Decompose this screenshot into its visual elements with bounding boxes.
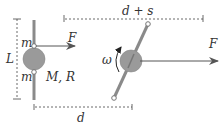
omega-label: ω: [102, 53, 112, 67]
distance-d-label: d: [77, 111, 85, 125]
disk: [23, 48, 45, 70]
mass-top: [146, 22, 151, 27]
force-label: F: [208, 37, 218, 51]
force-label: F: [67, 31, 77, 45]
mass-top-label: m: [21, 36, 32, 50]
left-configuration: L m m M, R F: [5, 19, 77, 100]
mass-bottom: [112, 96, 117, 101]
mass-bottom-label: m: [21, 70, 32, 84]
length-dimension: [13, 19, 21, 99]
right-configuration: ω F: [102, 22, 218, 101]
distance-d-dimension: d: [34, 104, 132, 125]
distance-ds-dimension: d + s: [64, 4, 203, 22]
distance-ds-label: d + s: [122, 4, 154, 18]
length-label: L: [5, 52, 14, 66]
physics-diagram: L m m M, R F d d + s ω F: [0, 0, 221, 127]
disk-label: M, R: [45, 70, 75, 84]
